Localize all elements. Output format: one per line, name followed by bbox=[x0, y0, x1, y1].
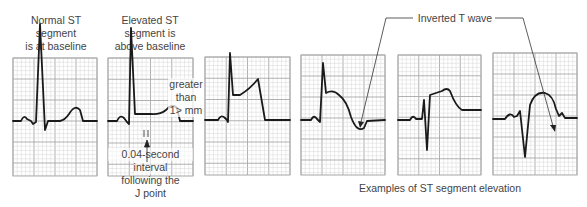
greater-line-2: than bbox=[168, 91, 204, 104]
greater-than-label: greater than 1> mm bbox=[168, 78, 204, 117]
interval-line-4: J point bbox=[108, 187, 193, 200]
greater-line-3: 1> mm bbox=[168, 104, 204, 117]
ecg-panel-example-1 bbox=[205, 57, 290, 175]
elevated-st-line-3: above baseline bbox=[100, 40, 200, 53]
ecg-panel-example-2 bbox=[301, 55, 385, 175]
greater-line-1: greater bbox=[168, 78, 204, 91]
elevated-st-label: Elevated ST segment is above baseline bbox=[100, 14, 200, 53]
examples-caption: Examples of ST segment elevation bbox=[340, 182, 540, 195]
elevated-st-line-2: segment is bbox=[100, 27, 200, 40]
ecg-panel-normal-st bbox=[13, 58, 97, 176]
inverted-t-wave-label: Inverted T wave bbox=[414, 12, 496, 25]
interval-line-2: interval bbox=[134, 161, 168, 174]
ecg-grid bbox=[301, 55, 385, 175]
ecg-grid bbox=[205, 57, 290, 175]
ecg-grid bbox=[398, 55, 481, 175]
ecg-grid bbox=[493, 53, 577, 175]
normal-st-line-1: Normal ST bbox=[2, 14, 110, 27]
normal-st-line-2: segment bbox=[2, 27, 110, 40]
normal-st-label: Normal ST segment is at baseline bbox=[2, 14, 110, 53]
normal-st-line-3: is at baseline bbox=[2, 40, 110, 53]
interval-line-3: following the bbox=[108, 174, 193, 187]
interval-line-1: 0.04-second bbox=[108, 148, 193, 161]
ecg-grid bbox=[13, 58, 97, 176]
interval-label: 0.04-second interval following the J poi… bbox=[108, 148, 193, 200]
ecg-panel-example-3 bbox=[398, 55, 481, 175]
ecg-panel-example-4 bbox=[493, 53, 577, 175]
elevated-st-line-1: Elevated ST bbox=[100, 14, 200, 27]
